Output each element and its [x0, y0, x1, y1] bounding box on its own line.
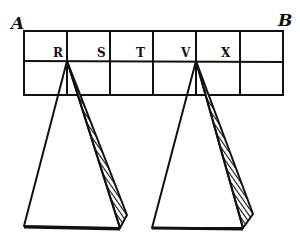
pyramid-r-shaded-face — [67, 61, 127, 228]
cell-label-t: T — [136, 46, 145, 60]
woodcut-diagram: A B R S T V X — [0, 0, 300, 241]
pyramid-v-base — [152, 228, 243, 229]
pyramid-r — [24, 61, 127, 229]
cell-label-r: R — [53, 46, 64, 60]
corner-label-b: B — [277, 10, 292, 30]
cell-label-s: S — [97, 46, 106, 60]
cell-label-v: V — [180, 46, 191, 60]
grid-strip — [24, 31, 283, 95]
pyramid-v-front-face — [152, 61, 243, 228]
pyramid-v — [152, 61, 253, 229]
cell-label-x: X — [221, 46, 231, 60]
pyramid-v-shaded-face — [196, 61, 253, 228]
pyramid-r-front-face — [24, 61, 120, 228]
corner-label-a: A — [9, 13, 24, 33]
pyramid-r-base — [24, 227, 120, 229]
